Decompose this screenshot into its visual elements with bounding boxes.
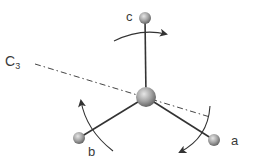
atom-label-b: b bbox=[88, 145, 95, 158]
axis-label: C3 bbox=[5, 54, 20, 71]
rotation-arrow-c-icon bbox=[114, 32, 166, 41]
atom-label-a: a bbox=[231, 134, 238, 147]
atom-center bbox=[136, 87, 156, 107]
atom-c bbox=[139, 12, 151, 24]
axis-label-sub: 3 bbox=[15, 61, 20, 71]
rotation-arrow-b-icon bbox=[81, 101, 113, 151]
atom-label-c: c bbox=[126, 10, 133, 23]
bond-b bbox=[79, 97, 146, 138]
bond-c bbox=[145, 18, 146, 97]
axis-label-main: C bbox=[5, 53, 15, 69]
bond-a bbox=[146, 97, 214, 140]
atom-b bbox=[73, 132, 85, 144]
molecule-diagram bbox=[0, 0, 256, 164]
atom-a bbox=[208, 134, 220, 146]
c3-axis-line bbox=[35, 64, 210, 117]
